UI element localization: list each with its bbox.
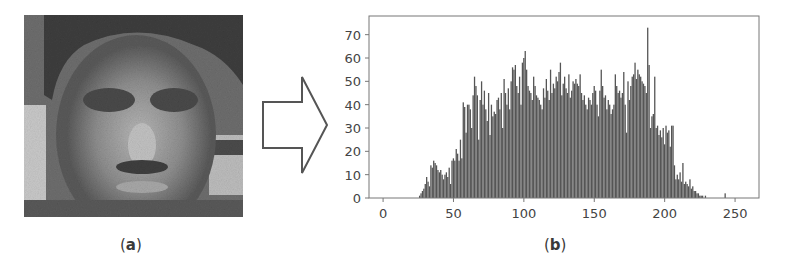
histogram-bar [439,172,440,198]
histogram-bar [488,93,489,198]
histogram-bar [689,179,690,198]
histogram-bar [684,184,685,198]
histogram-bar [437,170,438,198]
histogram-bar [661,137,662,198]
histogram-bar [596,105,597,198]
histogram-bar [423,189,424,198]
histogram-bar [516,86,517,198]
histogram-bar [581,93,582,198]
histogram-bar [599,91,600,198]
histogram-bar [534,86,535,198]
histogram-bar [523,58,524,198]
histogram-bar [541,109,542,198]
histogram-bar [636,79,637,198]
histogram-bar [568,74,569,198]
histogram-bar [456,149,457,198]
histogram-bar [698,193,699,198]
histogram-bar [422,191,423,198]
histogram-bar [672,126,673,198]
histogram-bar [696,193,697,198]
y-tick-label: 20 [344,144,361,159]
histogram-bar [692,186,693,198]
histogram-bar [653,114,654,198]
histogram-bar [430,165,431,198]
histogram-bar [539,100,540,198]
histogram-bar [512,67,513,198]
histogram-bar [626,133,627,198]
histogram-bar [556,77,557,198]
histogram-bar [641,81,642,198]
histogram-bar [532,100,533,198]
histogram-bar [463,102,464,198]
histogram-bar [553,84,554,198]
histogram-bar [591,105,592,198]
histogram-bar [579,74,580,198]
histogram-bar [544,98,545,198]
histogram-bar [648,65,649,198]
histogram-bar [585,105,586,198]
histogram-bar [458,161,459,198]
histogram-bar [477,95,478,198]
histogram-bar [667,133,668,198]
x-tick-label: 250 [723,206,748,221]
histogram-bar [506,105,507,198]
histogram-bar [632,77,633,198]
histogram-bar [498,98,499,198]
caption-a: (a) [120,236,142,254]
histogram-bar [481,81,482,198]
histogram-bar [475,86,476,198]
histogram-bar [501,93,502,198]
histogram-bar [567,93,568,198]
histogram-bar [457,154,458,198]
histogram-bar [519,77,520,198]
histogram-bar [658,135,659,198]
histogram-bar [575,79,576,198]
histogram-bar [503,79,504,198]
histogram-bar [616,86,617,198]
histogram-bar [465,133,466,198]
plot-area: 050100150200250010203040506070 [344,16,759,221]
histogram-bar [520,105,521,198]
histogram-bar [526,70,527,198]
histogram-chart: 050100150200250010203040506070 [330,8,780,233]
histogram-bar [557,81,558,198]
histogram-bar [554,88,555,198]
histogram-bar [643,84,644,198]
histogram-bar [618,93,619,198]
histogram-bar [471,128,472,198]
histogram-bar [646,93,647,198]
histogram-bar [446,172,447,198]
histogram-bar [694,191,695,198]
histogram-bar [461,158,462,198]
histogram-bar [522,63,523,198]
histogram-bar [451,161,452,198]
histogram-bar [436,165,437,198]
histogram-bar [443,179,444,198]
histogram-bar [622,93,623,198]
histogram-bar [605,95,606,198]
histogram-bar [606,109,607,198]
histogram-bar [563,84,564,198]
histogram-bar [582,100,583,198]
histogram-bar [688,186,689,198]
histogram-bar [432,168,433,198]
histogram-bar [587,109,588,198]
histogram-bar [679,172,680,198]
histogram-bar [609,105,610,198]
y-tick-label: 30 [344,121,361,136]
histogram-bar [470,109,471,198]
histogram-bar [425,184,426,198]
histogram-bar [602,86,603,198]
histogram-bar [565,88,566,198]
histogram-bar [572,81,573,198]
histogram-bar [472,95,473,198]
histogram-bar [664,144,665,198]
histogram-bar [625,105,626,198]
histogram-bar [603,98,604,198]
histogram-bar [686,184,687,198]
histogram-bar [594,86,595,198]
histogram-bar [677,175,678,198]
y-tick-label: 50 [344,74,361,89]
histogram-bar [613,105,614,198]
histogram-bar [468,105,469,198]
